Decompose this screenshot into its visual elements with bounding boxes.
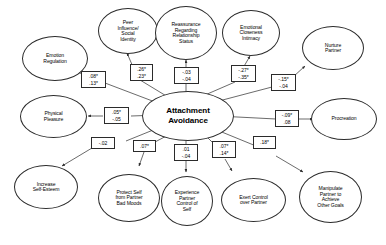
node-nurture-partner-label: NurturePartner	[304, 43, 362, 54]
coef-emotion-regulation: .08* .13*	[81, 71, 106, 88]
arrow-coef-to-manipulate-partner	[276, 156, 303, 172]
node-attachment-avoidance[interactable]: AttachmentAvoidance	[142, 91, 234, 141]
coef-protect-self-value-1: .07*	[140, 143, 149, 149]
node-emotional-closeness-intimacy-label: EmotionalClosenessIntimacy	[224, 25, 278, 42]
arrow-coef-to-protect-self	[139, 152, 144, 166]
coef-manipulate-partner-value-1: .18*	[260, 139, 269, 145]
coef-increase-self-esteem-value-1: -.02	[99, 140, 108, 146]
coef-reassurance: -.03 -.04	[174, 67, 199, 84]
node-increase-self-esteem[interactable]: IncreaseSelf-Esteem	[14, 165, 78, 209]
node-experience-partner-control-of-self[interactable]: ExperiencePartnerControl ofSelf	[161, 176, 213, 226]
coef-exert-control-value-2: .14*	[220, 150, 229, 156]
node-peer-influence-social-identity[interactable]: PeerInfluence/SocialIdentity	[98, 8, 158, 54]
node-nurture-partner[interactable]: NurturePartner	[302, 26, 364, 70]
coef-manipulate-partner: .18*	[253, 136, 276, 149]
node-protect-self-from-partner-bad-moods-label: Protect Selffrom PartnerBad Moods	[100, 190, 158, 207]
arrow-coef-to-increase-self-esteem	[62, 148, 92, 166]
node-procreation[interactable]: Procreation	[311, 98, 377, 140]
node-protect-self-from-partner-bad-moods[interactable]: Protect Selffrom PartnerBad Moods	[98, 174, 160, 222]
coef-procreation-value-2: .08	[284, 119, 291, 125]
node-procreation-label: Procreation	[313, 116, 375, 122]
coef-procreation: -.09* .08	[275, 110, 299, 127]
coef-emotional-closeness-value-2: -.35*	[238, 74, 249, 80]
coef-physical-pleasure: .05* -.05	[104, 107, 129, 124]
arrow-coef-to-exert-control	[225, 159, 232, 171]
node-peer-influence-social-identity-label: PeerInfluence/SocialIdentity	[100, 20, 156, 42]
node-experience-partner-control-of-self-label: ExperiencePartnerControl ofSelf	[163, 190, 211, 212]
coef-experience-partner-control-value-2: -.04	[182, 153, 191, 159]
node-exert-control-over-partner-label: Exert Controlover Partner	[223, 195, 284, 206]
node-physical-pleasure[interactable]: PhysicalPleasure	[20, 95, 87, 138]
coef-exert-control: .07* .14*	[212, 141, 236, 158]
node-emotion-regulation[interactable]: EmotionRegulation	[22, 36, 88, 81]
node-exert-control-over-partner[interactable]: Exert Controlover Partner	[221, 178, 286, 222]
node-reassurance-regarding-relationship-status[interactable]: ReassuranceRegardingRelationshipStatus	[155, 6, 217, 60]
node-physical-pleasure-label: PhysicalPleasure	[22, 111, 85, 122]
coef-reassurance-value-2: -.04	[182, 76, 191, 82]
node-increase-self-esteem-label: IncreaseSelf-Esteem	[16, 182, 76, 193]
node-attachment-avoidance-label: AttachmentAvoidance	[144, 106, 232, 125]
node-emotion-regulation-label: EmotionRegulation	[24, 53, 86, 64]
node-manipulate-partner-to-achieve-other-goals[interactable]: ManipulatePartner toAchieveOther Goals	[299, 171, 362, 223]
coef-nurture-partner: -.15* -.04	[271, 74, 296, 91]
node-reassurance-regarding-relationship-status-label: ReassuranceRegardingRelationshipStatus	[157, 22, 215, 44]
node-manipulate-partner-to-achieve-other-goals-label: ManipulatePartner toAchieveOther Goals	[301, 186, 360, 208]
path-diagram: EmotionRegulation PeerInfluence/SocialId…	[0, 0, 386, 245]
coef-physical-pleasure-value-2: -.05	[112, 116, 121, 122]
coef-peer-influence: .26* .23*	[130, 64, 153, 81]
coef-emotional-closeness: -.27* -.35*	[231, 65, 256, 82]
node-emotional-closeness-intimacy[interactable]: EmotionalClosenessIntimacy	[222, 10, 280, 56]
coef-emotion-regulation-value-2: .13*	[89, 80, 98, 86]
coef-experience-partner-control: .01 -.04	[174, 144, 198, 161]
coef-protect-self: .07*	[133, 140, 156, 152]
coef-increase-self-esteem: -.02	[91, 137, 115, 149]
coef-peer-influence-value-2: .23*	[137, 73, 146, 79]
coef-nurture-partner-value-2: -.04	[279, 83, 288, 89]
